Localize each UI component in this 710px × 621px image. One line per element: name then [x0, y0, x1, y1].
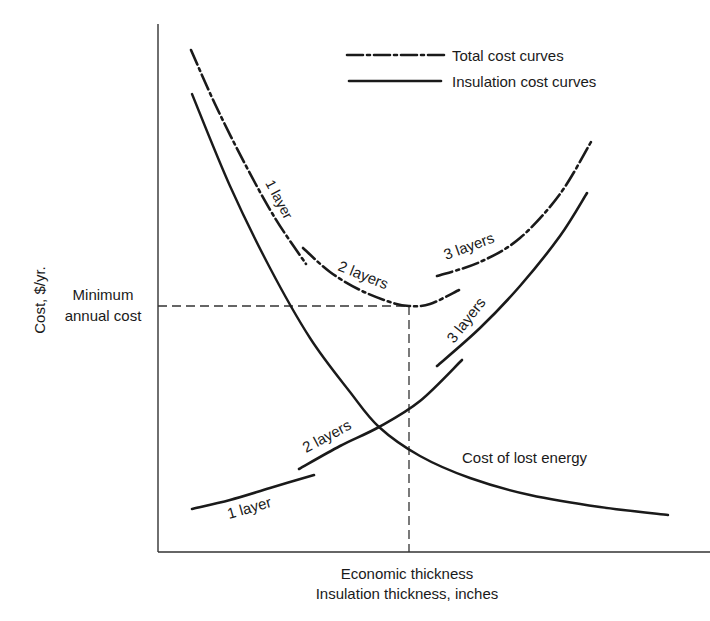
legend-total-label: Total cost curves [452, 47, 564, 64]
total-1-layer-label: 1 layer [262, 177, 296, 222]
legend: Total cost curves Insulation cost curves [347, 47, 596, 90]
min-cost-label-line1: Minimum [73, 286, 134, 303]
insulation-3-layers-label: 3 layers [443, 294, 489, 346]
total-2-layers-label: 2 layers [336, 257, 391, 292]
y-axis-label: Cost, $/yr. [31, 266, 48, 334]
legend-insulation-label: Insulation cost curves [452, 73, 596, 90]
total-cost-1-layer-curve [191, 50, 306, 264]
axes [158, 24, 710, 552]
insulation-2-layers-label: 2 layers [299, 416, 353, 456]
curves [191, 50, 668, 515]
min-cost-label-line2: annual cost [65, 307, 143, 324]
insulation-cost-chart: Total cost curves Insulation cost curves… [0, 0, 710, 621]
insulation-1-layer-label: 1 layer [225, 493, 273, 522]
economic-thickness-label: Economic thickness [341, 565, 474, 582]
insulation-cost-2-layers-curve [299, 360, 462, 469]
guide-lines [158, 306, 409, 552]
lost-energy-label: Cost of lost energy [462, 449, 588, 466]
x-axis-label: Insulation thickness, inches [316, 585, 499, 602]
